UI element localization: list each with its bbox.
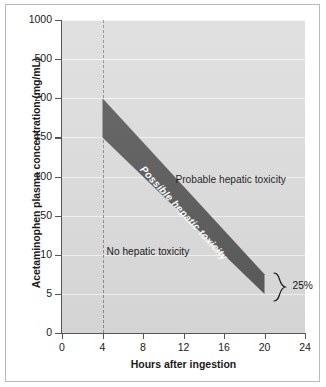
x-axis-tick-label: 20 bbox=[250, 341, 280, 353]
y-axis-tick-label: 50 bbox=[20, 209, 52, 221]
y-axis-tick bbox=[55, 177, 61, 178]
x-axis-tick bbox=[305, 334, 306, 339]
x-axis-tick bbox=[224, 334, 225, 339]
nomogram-figure: Acetaminophen plasma concentration (mg/m… bbox=[0, 0, 326, 387]
brace-percent-label: 25% bbox=[293, 280, 313, 291]
x-axis-tick-label: 8 bbox=[128, 341, 158, 353]
y-axis-tick bbox=[55, 294, 61, 295]
x-axis-tick-label: 24 bbox=[290, 341, 320, 353]
x-axis-title: Hours after ingestion bbox=[62, 358, 305, 370]
x-axis-tick bbox=[184, 334, 185, 339]
y-axis-tick bbox=[55, 255, 61, 256]
y-axis-tick-label: 200 bbox=[20, 91, 52, 103]
y-axis-tick-label: 10 bbox=[20, 248, 52, 260]
x-axis-tick-label: 0 bbox=[47, 341, 77, 353]
x-axis-tick bbox=[62, 334, 63, 339]
y-axis-tick bbox=[55, 98, 61, 99]
y-axis-tick bbox=[55, 137, 61, 138]
y-axis-line bbox=[61, 20, 62, 334]
band-width-brace: 25% bbox=[269, 270, 326, 304]
x-axis-tick-label: 4 bbox=[88, 341, 118, 353]
x-axis-tick bbox=[265, 334, 266, 339]
y-axis-tick-label: 150 bbox=[20, 130, 52, 142]
x-axis-tick-label: 16 bbox=[209, 341, 239, 353]
y-axis-tick-label: 500 bbox=[20, 52, 52, 64]
y-axis-tick-label: 1000 bbox=[20, 13, 52, 25]
y-axis-tick bbox=[55, 216, 61, 217]
probable-toxicity-label: Probable hepatic toxicity bbox=[175, 174, 285, 185]
y-axis-tick-label: 0 bbox=[20, 326, 52, 338]
y-axis-tick bbox=[55, 20, 61, 21]
x-axis-tick bbox=[103, 334, 104, 339]
x-axis-tick bbox=[143, 334, 144, 339]
y-axis-tick bbox=[55, 59, 61, 60]
x-axis-tick-label: 12 bbox=[169, 341, 199, 353]
y-axis-tick-label: 5 bbox=[20, 287, 52, 299]
no-toxicity-label: No hepatic toxicity bbox=[107, 246, 190, 257]
y-axis-tick bbox=[55, 333, 61, 334]
y-axis-tick-label: 100 bbox=[20, 170, 52, 182]
